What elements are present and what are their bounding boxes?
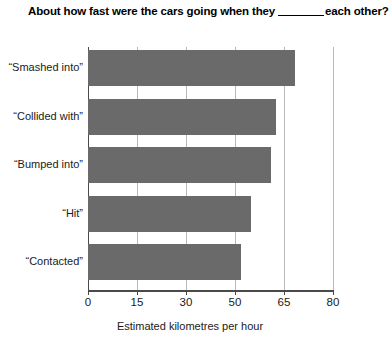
bar-row — [88, 99, 333, 135]
tickmark-0 — [88, 290, 89, 295]
tickmark-65 — [284, 290, 285, 295]
x-tick-label: 15 — [131, 296, 144, 308]
category-label: “Hit” — [62, 207, 83, 219]
bar — [88, 196, 251, 232]
plot-area — [88, 47, 333, 290]
chart-title: About how fast were the cars going when … — [28, 5, 354, 17]
category-label: “Contacted” — [26, 255, 83, 267]
tickmark-15 — [137, 290, 138, 295]
bar — [88, 244, 241, 280]
bar — [88, 50, 295, 86]
chart-title-suffix: each other? — [325, 5, 389, 17]
chart-title-blank — [278, 15, 324, 16]
category-label: “Smashed into” — [8, 61, 83, 73]
tickmark-50 — [235, 290, 236, 295]
bar-row — [88, 147, 333, 183]
bar — [88, 147, 271, 183]
chart-title-prefix: About how fast were the cars going when … — [28, 5, 275, 17]
x-axis-title: Estimated kilometres per hour — [0, 320, 354, 332]
category-label: “Bumped into” — [14, 158, 83, 170]
x-tick-label: 65 — [278, 296, 291, 308]
x-tick-label: 80 — [327, 296, 340, 308]
tickmark-30 — [186, 290, 187, 295]
bar-row — [88, 196, 333, 232]
bar — [88, 99, 276, 135]
bar-row — [88, 50, 333, 86]
x-tick-label: 50 — [229, 296, 242, 308]
x-tick-label: 0 — [85, 296, 91, 308]
x-tick-label: 30 — [180, 296, 193, 308]
x-axis-line — [88, 290, 334, 292]
category-label: “Collided with” — [13, 110, 83, 122]
bar-row — [88, 244, 333, 280]
tickmark-80 — [333, 290, 334, 295]
gridline-80 — [333, 47, 334, 290]
